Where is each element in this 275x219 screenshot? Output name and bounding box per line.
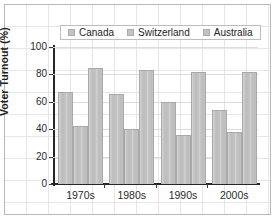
plot-area: 0204060801001970s1980s1990s2000s [53,47,258,184]
legend-swatch-icon [127,29,134,36]
y-tick-label: 60 [36,97,47,107]
y-tick-label: 20 [36,152,47,162]
bar-canada-1990s [161,102,176,184]
bar-switzerland-1990s [176,135,191,184]
y-tick-mark [49,184,53,185]
x-tick-label-2000s: 2000s [220,189,249,201]
bar-canada-1980s [109,94,124,184]
legend-label: Switzerland [138,28,190,38]
bar-canada-1970s [58,92,73,184]
y-tick-label: 80 [36,69,47,79]
chart-legend: CanadaSwitzerlandAustralia [60,25,261,40]
y-tick-label: 0 [41,179,47,189]
bar-australia-1990s [191,72,206,184]
bar-switzerland-1970s [73,126,88,184]
legend-item-australia[interactable]: Australia [203,28,253,38]
bar-canada-2000s [212,110,227,184]
chart-figure: Voter Turnout (%) 0204060801001970s1980s… [0,0,275,219]
x-tick-label-1970s: 1970s [66,189,95,201]
x-tick-mark [104,184,105,188]
legend-item-canada[interactable]: Canada [68,28,114,38]
legend-label: Australia [214,28,253,38]
bar-group [104,47,155,184]
y-tick-label: 100 [30,42,47,52]
y-tick-label: 40 [36,124,47,134]
bar-switzerland-1980s [124,129,139,184]
legend-item-switzerland[interactable]: Switzerland [127,28,190,38]
legend-swatch-icon [203,29,210,36]
bar-australia-1970s [88,68,103,184]
legend-swatch-icon [68,29,75,36]
x-tick-mark [156,184,157,188]
bar-group [207,47,258,184]
bar-australia-1980s [139,70,154,184]
x-tick-label-1980s: 1980s [117,189,146,201]
bar-switzerland-2000s [227,132,242,184]
bar-group [53,47,104,184]
y-axis-title: Voter Turnout (%) [0,27,10,116]
x-tick-label-1990s: 1990s [169,189,198,201]
bar-australia-2000s [242,72,257,184]
bar-group [156,47,207,184]
legend-label: Canada [79,28,114,38]
x-tick-mark [207,184,208,188]
